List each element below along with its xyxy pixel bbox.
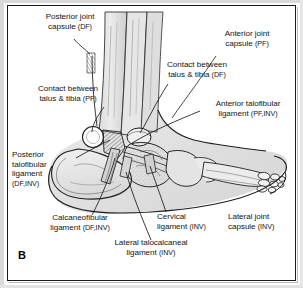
leader-posterior-joint-capsule: [74, 39, 90, 54]
label-lateral-joint-capsule: Lateral joint capsule (INV): [228, 212, 300, 231]
label-calcaneofibular-ligament: Calcaneofibular ligament (DF,INV): [26, 213, 134, 232]
scan-edge-left: [0, 0, 4, 288]
scan-edge-top: [0, 0, 303, 3]
label-contact-talus-tibia-df: Contact between talus & tibia (DF): [145, 60, 249, 79]
malleolus-contact-circle: [83, 127, 104, 148]
label-anterior-joint-capsule: Anterior joint capsule (PF): [200, 29, 294, 48]
label-contact-talus-tibia-pf: Contact between talus & tibia (PF): [16, 84, 120, 103]
figure-panel-b: Posterior joint capsule (DF) Anterior jo…: [0, 0, 303, 288]
label-lateral-talocalcaneal-ligament: Lateral talocalcaneal ligament (INV): [96, 238, 206, 257]
scan-edge-right: [300, 0, 303, 288]
label-anterior-talofibular-ligament: Anterior talofibular ligament (PF,INV): [196, 99, 300, 118]
label-posterior-joint-capsule: Posterior joint capsule (DF): [18, 12, 122, 31]
label-posterior-talofibular-ligament: Posterior talofibular ligament (DF,INV): [12, 150, 78, 188]
panel-letter: B: [18, 249, 26, 261]
label-cervical-ligament: Cervical ligament (INV): [157, 212, 229, 231]
